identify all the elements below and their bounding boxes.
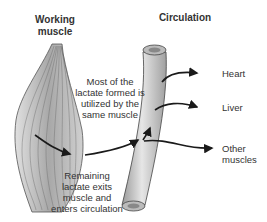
- annotation-enters-circulation: Remaining lactate exits muscle and enter…: [44, 170, 130, 214]
- arrow-muscle-to-circulation: [85, 140, 138, 155]
- heading-working-muscle: Working muscle: [20, 14, 90, 38]
- label-heart: Heart: [222, 68, 245, 79]
- label-other-muscles: Other muscles: [222, 143, 257, 165]
- label-liver: Liver: [222, 102, 243, 113]
- heading-circulation: Circulation: [145, 12, 225, 24]
- annotation-utilized-by-same-muscle: Most of the lactate formed is utilized b…: [65, 76, 155, 120]
- arrow-to-heart: [162, 72, 197, 82]
